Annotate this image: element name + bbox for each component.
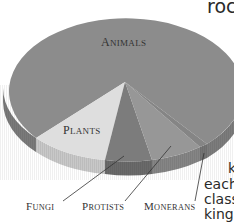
label-plants: PLANTS [63,123,100,137]
label-fungi: FUNGI [26,200,54,212]
label-protists: PROTISTS [82,200,124,212]
pie-chart: ANIMALS PLANTS FUNGI PROTISTS MONERANS [0,0,234,222]
body-text-line1: k [228,160,234,177]
label-animals: ANIMALS [101,35,146,49]
body-text-top: rock [207,0,234,15]
label-monerans: MONERANS [144,200,195,212]
body-text-line4: king [204,206,234,222]
